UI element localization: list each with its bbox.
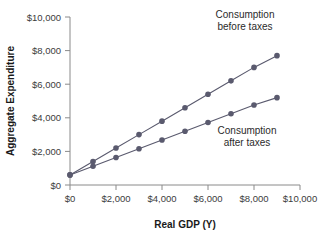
chart-container: $0 $2,000 $4,000 $6,000 $8,000 $10,000 $… xyxy=(0,0,322,239)
y-tick-label-2000: $2,000 xyxy=(32,146,61,157)
annotation-before-taxes-line1: Consumption xyxy=(216,9,275,20)
data-point xyxy=(67,172,73,178)
data-point xyxy=(205,120,211,126)
x-axis-title: Real GDP (Y) xyxy=(154,219,216,230)
y-tick-label-10000: $10,000 xyxy=(27,12,61,23)
chart-svg: $0 $2,000 $4,000 $6,000 $8,000 $10,000 $… xyxy=(0,0,322,239)
x-tick-label-6000: $6,000 xyxy=(193,193,222,204)
y-tick-label-6000: $6,000 xyxy=(32,79,61,90)
data-point xyxy=(228,111,234,117)
x-tick-label-2000: $2,000 xyxy=(101,193,130,204)
annotation-after-taxes-line1: Consumption xyxy=(218,125,277,136)
data-point xyxy=(113,145,119,151)
y-tick-label-0: $0 xyxy=(50,180,61,191)
data-point xyxy=(274,53,280,59)
x-tick-label-4000: $4,000 xyxy=(147,193,176,204)
x-tick-label-8000: $8,000 xyxy=(239,193,268,204)
data-point xyxy=(182,128,188,134)
data-point xyxy=(90,163,96,169)
y-axis-ticks xyxy=(65,17,70,185)
y-axis-title: Aggregate Expenditure xyxy=(5,46,16,156)
data-point xyxy=(274,95,280,101)
series-layer xyxy=(67,53,280,178)
data-point xyxy=(251,102,257,108)
data-point xyxy=(136,146,142,152)
data-point xyxy=(113,155,119,161)
x-tick-label-0: $0 xyxy=(65,193,76,204)
y-tick-label-4000: $4,000 xyxy=(32,112,61,123)
data-point xyxy=(205,91,211,97)
data-point xyxy=(136,132,142,138)
x-axis-ticks xyxy=(70,185,300,190)
series-1 xyxy=(67,53,280,178)
series-line-1 xyxy=(70,56,277,175)
annotation-after-taxes-line2: after taxes xyxy=(224,137,271,148)
data-point xyxy=(159,137,165,143)
data-point xyxy=(251,65,257,71)
data-point xyxy=(228,78,234,84)
data-point xyxy=(159,118,165,124)
annotation-before-taxes-line2: before taxes xyxy=(217,21,272,32)
x-tick-label-10000: $10,000 xyxy=(283,193,317,204)
y-tick-label-8000: $8,000 xyxy=(32,45,61,56)
data-point xyxy=(182,105,188,111)
